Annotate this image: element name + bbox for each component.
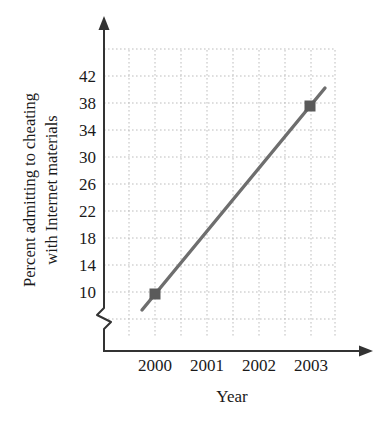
data-point-2000 [150, 289, 161, 300]
x-axis [103, 346, 373, 357]
y-tick-label: 14 [79, 256, 97, 275]
y-tick-label: 42 [79, 67, 96, 86]
y-axis-title: Percent admitting to cheating with Inter… [20, 93, 61, 287]
y-tick-label: 18 [79, 229, 96, 248]
y-tick-label: 22 [79, 202, 96, 221]
y-tick-label: 26 [79, 175, 96, 194]
x-axis-arrow-right-icon [359, 346, 373, 357]
x-tick-labels: 2000 2001 2002 2003 [138, 356, 328, 375]
y-tick-label: 10 [79, 283, 96, 302]
y-tick-label: 34 [79, 121, 97, 140]
x-tick-label: 2000 [138, 356, 172, 375]
x-tick-label: 2002 [242, 356, 276, 375]
chart-container: 42 38 34 30 26 22 18 14 10 2000 2001 200… [0, 0, 387, 421]
line-chart: 42 38 34 30 26 22 18 14 10 2000 2001 200… [0, 0, 387, 421]
data-point-2003 [305, 101, 316, 112]
y-tick-labels: 42 38 34 30 26 22 18 14 10 [79, 67, 97, 302]
x-axis-title: Year [216, 387, 248, 406]
x-tick-label: 2001 [190, 356, 224, 375]
x-tick-label: 2003 [294, 356, 328, 375]
y-axis-title-line-2: with Internet materials [42, 115, 61, 264]
y-tick-label: 38 [79, 94, 96, 113]
y-axis-title-line-1: Percent admitting to cheating [20, 93, 39, 287]
y-tick-label: 30 [79, 148, 96, 167]
y-axis-arrow-up-icon [99, 16, 110, 30]
plot-area-background [104, 50, 335, 338]
